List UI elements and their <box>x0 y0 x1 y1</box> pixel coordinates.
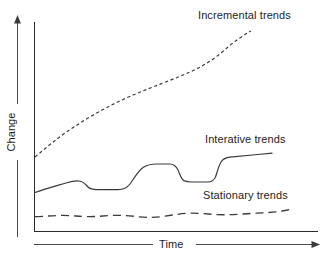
chart-canvas <box>0 0 325 263</box>
arrow-right-icon <box>312 241 321 248</box>
series-stationary-trends-curve <box>35 209 290 217</box>
series-label-stationary-trends: Stationary trends <box>203 189 288 201</box>
arrow-up-icon <box>14 15 21 24</box>
trends-chart-figure: Incremental trends Interative trends Sta… <box>0 0 325 263</box>
series-label-interative-trends: Interative trends <box>205 133 286 145</box>
series-label-incremental-trends: Incremental trends <box>198 9 291 21</box>
x-axis-title: Time <box>153 238 189 250</box>
series-interative-trends-curve <box>35 153 272 192</box>
y-axis-title: Change <box>2 110 20 154</box>
